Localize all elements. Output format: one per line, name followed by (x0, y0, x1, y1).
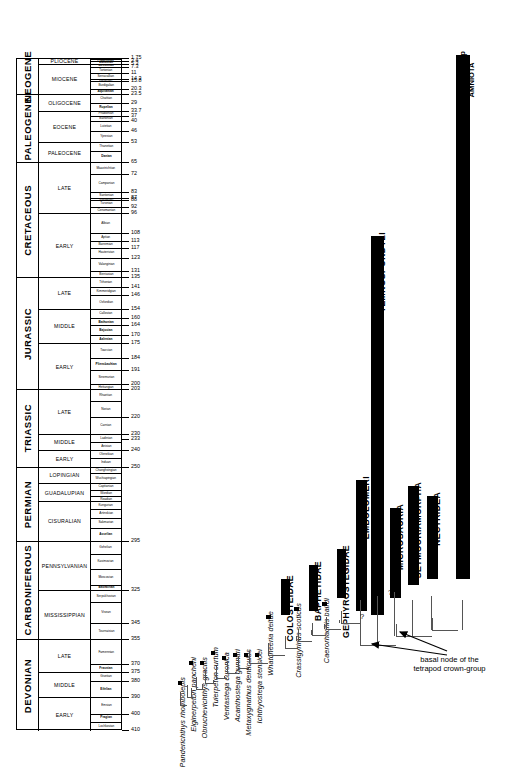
taxon-label-16: SEYMOURIAMORPHA (414, 482, 423, 578)
clade-branch-h-6 (238, 668, 249, 669)
clade-branch-v-15 (396, 624, 397, 636)
taxon-stem-8 (268, 650, 269, 655)
taxon-stem-3 (213, 680, 214, 683)
clade-branch-h-7 (249, 663, 268, 664)
clade-branch-h-2 (196, 689, 205, 690)
annotation-line-1: basal node of the (392, 655, 507, 664)
taxon-stem-11 (311, 630, 312, 635)
taxon-stem-19 (462, 600, 463, 630)
taxon-stem-12 (324, 624, 325, 629)
clade-branch-v-5 (227, 661, 228, 673)
clade-branch-v-13 (341, 611, 342, 623)
clade-branch-v-4 (216, 666, 217, 678)
crown-group-line-1: AMNIOTA (468, 51, 477, 97)
clade-branch-h-15 (396, 636, 432, 637)
clade-branch-h-8 (268, 655, 285, 656)
clade-branch-h-11 (312, 635, 326, 636)
question-mark-upper: ? (388, 588, 392, 597)
clade-branch-v-6 (238, 656, 239, 668)
clade-branch-h-14 (360, 645, 396, 646)
taxon-stem-5 (235, 672, 236, 673)
clade-branch-h-0 (180, 705, 187, 706)
clade-branch-h-4 (216, 678, 227, 679)
taxon-label-11: BAPHETIDAE (314, 561, 323, 621)
taxon-stem-9 (285, 640, 286, 648)
annotation-line-2: tetrapod crown-group (392, 664, 507, 673)
clade-branch-h-13 (341, 623, 360, 624)
clade-branch-h-5 (227, 673, 238, 674)
taxon-stem-16 (412, 600, 413, 636)
clade-branch-h-12 (326, 629, 341, 630)
clade-branch-h-9 (285, 648, 298, 649)
taxon-stem-4 (224, 676, 225, 678)
taxon-label-19: crown-groupAMNIOTA (459, 51, 476, 97)
taxon-stem-17 (431, 596, 432, 630)
taxon-stem-0 (180, 692, 181, 705)
clade-branch-v-2 (196, 677, 197, 689)
clade-branch-v-7 (249, 651, 250, 663)
clade-branch-h-16 (432, 630, 458, 631)
clade-branch-h-3 (205, 683, 216, 684)
basal-node-annotation: basal node of the tetrapod crown-group (392, 655, 507, 674)
taxon-stem-13 (339, 620, 340, 623)
clade-branch-h-1 (187, 697, 196, 698)
question-mark-lower: ? (360, 612, 364, 621)
taxon-label-18: TEMNOSPONDYLI (378, 232, 387, 312)
taxon-label-14: EMBOLOMERI (362, 476, 371, 539)
taxon-stem-18 (377, 596, 378, 645)
taxon-label-15: MICROSAURIA (396, 504, 405, 570)
clade-branch-v-12 (326, 617, 327, 629)
taxon-stem-2 (202, 684, 203, 689)
taxon-stem-14 (360, 600, 361, 645)
taxon-stem-1 (191, 688, 192, 697)
taxon-label-2: Obruchevichthys gracilis (201, 657, 208, 738)
taxon-stem-10 (296, 636, 297, 641)
clade-branch-v-10 (298, 629, 299, 641)
taxon-stem-15 (394, 592, 395, 636)
range-bar-crown-group-amniota (456, 55, 470, 578)
taxon-label-0: Panderichthys rhombolepis (179, 677, 186, 767)
clade-branch-v-3 (205, 671, 206, 683)
taxon-label-7: Ichthyostega stensioei (256, 649, 263, 723)
clade-branch-h-10 (298, 641, 312, 642)
clade-branch-v-1 (187, 685, 188, 697)
taxon-label-17: NECTRIDEA (433, 492, 442, 546)
